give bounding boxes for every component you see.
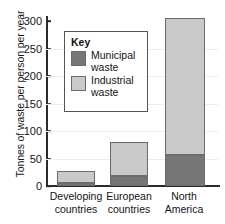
legend-label-line2: waste — [91, 87, 134, 99]
bar-segment-municipal — [57, 183, 95, 186]
waste-stacked-bar-chart: Tonnes of waste per person per year 0 50… — [0, 0, 225, 224]
legend-label-line1: Municipal — [91, 50, 135, 62]
bar-segment-industrial — [57, 171, 95, 183]
legend-title: Key — [71, 36, 147, 48]
legend-label-line2: waste — [91, 62, 135, 74]
bar-segment-industrial — [165, 18, 205, 155]
y-tick-label-150: 150 — [24, 98, 42, 110]
legend-entry-municipal: Municipal waste — [71, 50, 147, 73]
legend-label-municipal: Municipal waste — [91, 50, 135, 73]
x-category-label-north-america: North America — [142, 190, 225, 215]
legend-label-industrial: Industrial waste — [91, 75, 134, 98]
legend-swatch-municipal-icon — [71, 51, 86, 66]
legend-label-line1: Industrial — [91, 75, 134, 87]
legend: Key Municipal waste Industrial waste — [64, 31, 148, 112]
y-tick-label-100: 100 — [24, 125, 42, 137]
bar-segment-industrial — [110, 142, 148, 176]
y-tick-label-50: 50 — [30, 153, 42, 165]
legend-entry-industrial: Industrial waste — [71, 75, 147, 98]
y-tick-label-200: 200 — [24, 70, 42, 82]
bar-segment-municipal — [110, 176, 148, 186]
y-tick-label-300: 300 — [24, 15, 42, 27]
y-tick-label-250: 250 — [24, 43, 42, 55]
x-category-line2: America — [142, 203, 225, 216]
legend-swatch-industrial-icon — [71, 76, 86, 91]
x-category-line1: North — [142, 190, 225, 203]
bar-segment-municipal — [165, 155, 205, 186]
